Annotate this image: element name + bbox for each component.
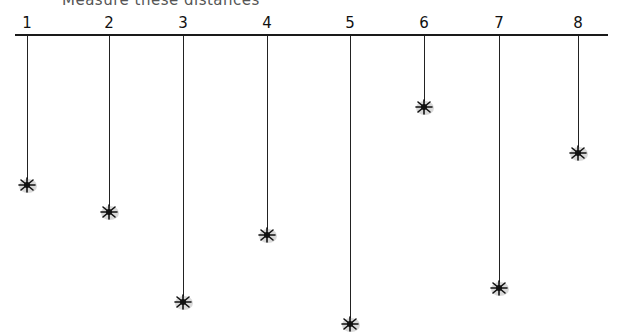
spider-number-label: 8 [573, 14, 583, 32]
spider-icon [488, 279, 510, 297]
spider-icon [413, 98, 435, 116]
spider-number-label: 1 [22, 14, 32, 32]
spider-icon [339, 315, 361, 333]
spider-number-label: 2 [104, 14, 114, 32]
instruction-text: Measure these distances [62, 0, 260, 9]
spider-icon [16, 176, 38, 194]
spider-thread [350, 36, 351, 320]
spider-thread [267, 36, 268, 231]
spider-thread [109, 36, 110, 208]
spider-thread [424, 36, 425, 103]
spider-number-label: 3 [178, 14, 188, 32]
spider-number-label: 6 [419, 14, 429, 32]
spider-icon [172, 293, 194, 311]
ceiling-line [15, 34, 608, 36]
spider-icon [98, 203, 120, 221]
spider-thread [183, 36, 184, 298]
spider-thread [578, 36, 579, 149]
spider-icon [256, 226, 278, 244]
spider-thread [27, 36, 28, 181]
spider-number-label: 7 [494, 14, 504, 32]
spider-number-label: 4 [262, 14, 272, 32]
spider-thread [499, 36, 500, 284]
spider-icon [567, 144, 589, 162]
spider-number-label: 5 [345, 14, 355, 32]
